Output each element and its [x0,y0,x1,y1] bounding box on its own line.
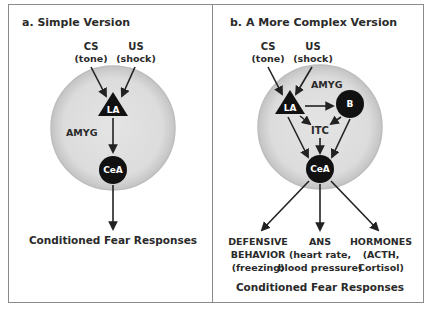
output-ans-line3: blood pressure) [278,262,363,273]
panel-b-la-label: LA [284,103,297,113]
panel-a-cs-sub: (tone) [75,53,108,64]
output-ans-line2: (heart rate, [289,249,351,260]
output-ans-line1: ANS [309,236,331,247]
panel-a-title: a. Simple Version [22,16,130,29]
panel-b-b-label: B [347,99,354,109]
panel-a-la-label: LA [107,105,120,115]
output-hormones-line2: (ACTH, [363,249,400,260]
panel-b-cea-label: CeA [310,164,330,174]
cea-to-defensive-arrow [262,181,309,230]
panel-a-output-label: Conditioned Fear Responses [29,234,197,246]
panel-b-output-label: Conditioned Fear Responses [236,281,404,293]
cea-to-hormones-arrow [331,181,378,230]
panel-b-title: b. A More Complex Version [230,16,397,29]
panel-b-cs-sub: (tone) [252,53,285,64]
panel-b-us-label: US [305,41,320,52]
panel-a-us-sub: (shock) [116,53,156,64]
panel-a: a. Simple Version CS (tone) US (shock) A… [22,16,197,246]
output-defensive-line1: DEFENSIVE [228,236,288,247]
panel-a-us-label: US [128,41,143,52]
panel-a-cea-label: CeA [103,165,123,175]
output-hormones-line3: Cortisol) [358,262,404,273]
panel-b-cs-label: CS [261,41,276,52]
output-defensive-line2: BEHAVIOR [231,249,286,260]
panel-b-us-sub: (shock) [293,53,333,64]
output-hormones: HORMONES (ACTH, Cortisol) [350,236,412,273]
panel-a-amyg-label: AMYG [66,127,98,138]
panel-b-itc-label: ITC [311,125,329,136]
fear-circuit-diagram: a. Simple Version CS (tone) US (shock) A… [0,0,430,312]
output-defensive-line3: (freezing) [232,262,285,273]
panel-b-amyg-label: AMYG [311,79,343,90]
output-hormones-line1: HORMONES [350,236,412,247]
panel-b: b. A More Complex Version CS (tone) US (… [228,16,412,293]
panel-a-cs-label: CS [84,41,99,52]
